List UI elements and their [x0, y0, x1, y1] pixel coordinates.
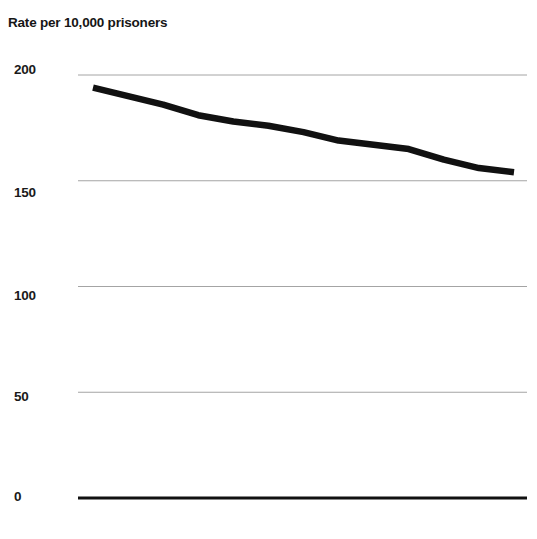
series-line-0 [93, 88, 514, 173]
plot-area [0, 0, 537, 539]
chart-figure: Rate per 10,000 prisoners 200 150 100 50… [0, 0, 537, 539]
gridlines [78, 75, 527, 392]
series-lines [93, 88, 514, 173]
